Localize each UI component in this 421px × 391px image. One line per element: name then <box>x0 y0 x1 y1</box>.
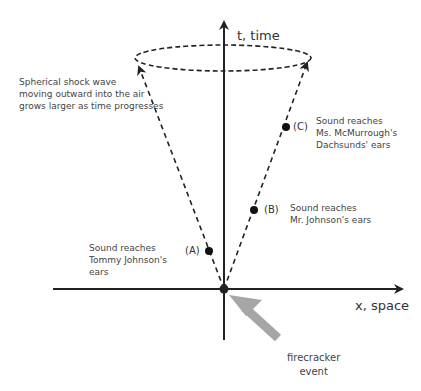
point-a-text: Sound reaches Tommy Johnson's ears <box>89 242 167 278</box>
point-a-dot <box>205 247 213 255</box>
point-b-dot <box>250 206 258 214</box>
point-c-text: Sound reaches Ms. McMurrough's Dachsunds… <box>316 115 397 151</box>
point-b-label: (B) <box>264 204 279 215</box>
shock-wave-annotation: Spherical shock wave moving outward into… <box>19 76 163 112</box>
point-b-text: Sound reaches Mr. Johnson's ears <box>290 202 371 226</box>
event-origin-dot <box>220 285 229 294</box>
point-c-dot <box>282 123 290 131</box>
t-axis-label: t, time <box>237 28 280 43</box>
spacetime-diagram <box>0 0 421 391</box>
point-c-label: (C) <box>293 121 308 132</box>
point-a-label: (A) <box>185 245 200 256</box>
event-annotation: firecracker event <box>287 351 340 379</box>
x-axis-label: x, space <box>355 298 409 313</box>
cone-right-edge <box>224 63 307 289</box>
firecracker-arrow-icon <box>229 295 278 338</box>
